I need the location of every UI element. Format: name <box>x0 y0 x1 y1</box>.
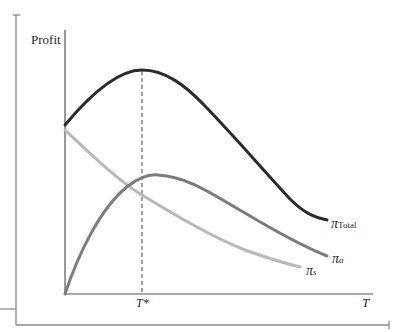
pi-s-curve <box>65 130 300 267</box>
pi-total-curve <box>65 70 327 220</box>
pi-s-subscript: s <box>313 267 317 277</box>
pi-s-label: πs <box>306 261 317 279</box>
t-star-label: T* <box>136 296 149 311</box>
profit-chart <box>0 0 399 332</box>
pi-s-symbol: π <box>306 263 313 278</box>
pi-total-symbol: π <box>331 216 338 231</box>
pi-a-label: πa <box>332 249 344 267</box>
pi-a-subscript: a <box>339 255 344 265</box>
y-axis-label: Profit <box>31 32 61 48</box>
pi-total-label: πTotal <box>331 214 356 232</box>
pi-a-symbol: π <box>332 251 339 266</box>
pi-a-curve <box>65 175 327 294</box>
x-axis-label: T <box>362 295 369 311</box>
pi-total-subscript: Total <box>338 220 356 230</box>
